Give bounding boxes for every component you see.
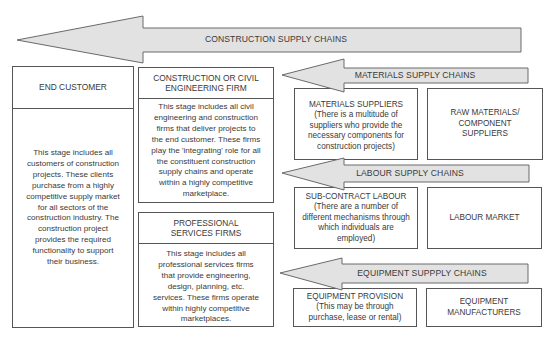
materials-suppliers-box: MATERIALS SUPPLIERS (There is a multitud…	[294, 88, 418, 160]
equipment-provision-box: EQUIPMENT PROVISION (This may be through…	[293, 288, 417, 327]
labour-market-box: LABOUR MARKET	[427, 187, 542, 249]
professional-services-description: This stage includes all professional ser…	[139, 244, 273, 325]
sub-contract-labour-box: SUB-CONTRACT LABOUR (There are a number …	[294, 187, 418, 249]
raw-materials-suppliers-box: RAW MATERIALS/ COMPONENT SUPPLIERS	[427, 88, 543, 160]
professional-services-box: PROFESSIONAL SERVICES FIRMS This stage i…	[138, 212, 274, 327]
professional-services-title: PROFESSIONAL SERVICES FIRMS	[139, 213, 273, 244]
end-customer-box: END CUSTOMER This stage includes all cus…	[12, 66, 134, 328]
construction-supply-chain-label: CONSTRUCTION SUPPLY CHAINS	[176, 34, 376, 44]
construction-firm-description: This stage includes all civil engineerin…	[139, 99, 273, 200]
end-customer-title: END CUSTOMER	[13, 67, 133, 109]
construction-firm-title: CONSTRUCTION OR CIVIL ENGINEERING FIRM	[139, 68, 273, 99]
end-customer-description: This stage includes all customers of con…	[13, 109, 133, 268]
equipment-supply-chain-label: EQUIPMENT SUPPPLY CHAINS	[327, 268, 517, 278]
construction-firm-box: CONSTRUCTION OR CIVIL ENGINEERING FIRM T…	[138, 67, 274, 203]
equipment-manufacturers-box: EQUIPMENT MANUFACTURERS	[426, 288, 542, 327]
labour-supply-chain-label: LABOUR SUPPLY CHAINS	[315, 168, 505, 178]
materials-supply-chain-label: MATERIALS SUPPLY CHAINS	[320, 70, 510, 80]
